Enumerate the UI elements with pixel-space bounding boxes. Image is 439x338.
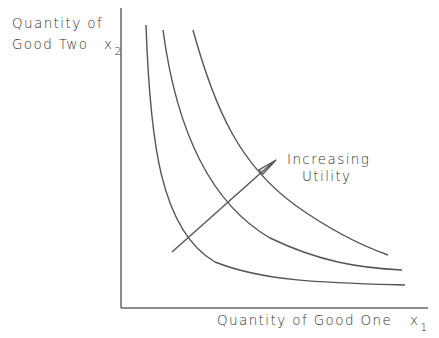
- annotation-line2: Utility: [302, 170, 352, 184]
- x-axis-label-text: Quantity of Good One: [217, 312, 392, 328]
- x-axis-label: Quantity of Good One x1: [217, 314, 429, 328]
- indifference-curve-2: [163, 30, 402, 270]
- annotation-line1: Increasing: [287, 153, 370, 167]
- x-axis-subscript: 1: [420, 321, 428, 334]
- indifference-curve-3: [193, 30, 388, 255]
- y-axis-var: x: [104, 36, 113, 52]
- y-axis-label-text2: Good Two: [12, 36, 88, 52]
- y-axis-label-line2: Good Two x2: [12, 38, 123, 52]
- y-axis-label-text1: Quantity of: [12, 15, 103, 31]
- x-axis-var: x: [410, 312, 419, 328]
- increasing-utility-arrow: [172, 163, 272, 252]
- y-axis-label-line1: Quantity of: [12, 17, 103, 31]
- y-axis-subscript: 2: [114, 45, 122, 58]
